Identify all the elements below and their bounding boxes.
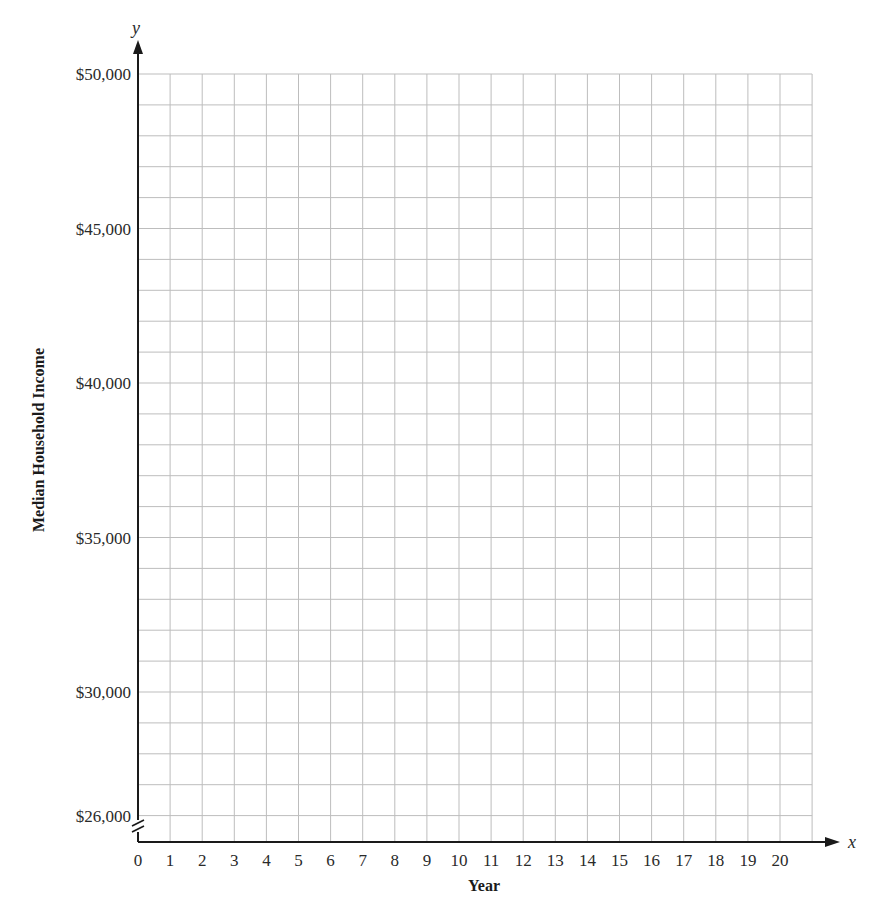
y-axis-title: Median Household Income [30, 348, 47, 532]
x-tick-labels: 01234567891011121314151617181920 [134, 851, 789, 870]
x-tick-label: 1 [166, 851, 175, 870]
x-axis-arrow-icon [825, 837, 840, 847]
x-tick-label: 14 [579, 851, 597, 870]
y-axis-letter: y [130, 18, 140, 38]
y-tick-label: $45,000 [76, 220, 131, 239]
x-tick-label: 19 [739, 851, 756, 870]
y-tick-labels: $26,000$30,000$35,000$40,000$45,000$50,0… [76, 65, 131, 826]
x-tick-label: 13 [547, 851, 564, 870]
y-tick-label: $50,000 [76, 65, 131, 84]
grid-lines [138, 74, 812, 842]
x-tick-label: 4 [262, 851, 271, 870]
y-tick-label: $26,000 [76, 807, 131, 826]
y-tick-label: $40,000 [76, 374, 131, 393]
x-tick-label: 15 [611, 851, 628, 870]
x-tick-label: 10 [451, 851, 468, 870]
x-tick-label: 17 [675, 851, 693, 870]
axis-break-icon [131, 820, 145, 832]
x-tick-label: 11 [483, 851, 499, 870]
x-tick-label: 16 [643, 851, 660, 870]
x-tick-label: 20 [772, 851, 789, 870]
x-tick-label: 2 [198, 851, 207, 870]
x-tick-label: 8 [391, 851, 400, 870]
x-axis-title: Year [468, 877, 500, 894]
x-tick-label: 6 [326, 851, 335, 870]
axes [131, 40, 840, 847]
x-tick-label: 5 [294, 851, 303, 870]
x-tick-label: 0 [134, 851, 143, 870]
y-tick-label: $35,000 [76, 529, 131, 548]
x-tick-label: 7 [358, 851, 367, 870]
x-tick-label: 9 [423, 851, 432, 870]
y-axis-arrow-icon [133, 40, 143, 54]
y-tick-label: $30,000 [76, 683, 131, 702]
chart: y x $26,000$30,000$35,000$40,000$45,000$… [0, 0, 883, 914]
x-tick-label: 12 [515, 851, 532, 870]
x-axis-letter: x [847, 832, 856, 852]
x-tick-label: 3 [230, 851, 239, 870]
x-tick-label: 18 [707, 851, 724, 870]
